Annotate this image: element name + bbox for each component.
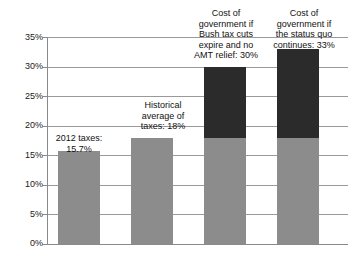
y-axis-label-30: 30% xyxy=(5,62,43,71)
y-axis-label-20: 20% xyxy=(5,121,43,130)
y-tick-15 xyxy=(43,155,47,156)
y-tick-10 xyxy=(43,185,47,186)
bar-segment-base xyxy=(58,151,100,244)
gridline-0-baseline xyxy=(47,244,348,245)
bar-status-quo-continues xyxy=(277,49,319,244)
y-tick-20 xyxy=(43,126,47,127)
bar-segment-top xyxy=(204,67,246,138)
y-tick-5 xyxy=(43,214,47,215)
y-axis-label-0: 0% xyxy=(5,239,43,248)
y-tick-30 xyxy=(43,67,47,68)
bar-segment-top xyxy=(277,49,319,138)
bar-label-historical-average: Historical average of taxes: 18% xyxy=(128,100,198,132)
y-axis-label-5: 5% xyxy=(5,210,43,219)
bar-segment-base xyxy=(131,138,173,244)
bar-segment-base xyxy=(277,138,319,244)
y-axis-label-10: 10% xyxy=(5,180,43,189)
y-tick-35 xyxy=(43,37,47,38)
bar-label-2012-taxes: 2012 taxes: 15.7% xyxy=(37,133,121,154)
bar-segment-base xyxy=(204,138,246,244)
y-axis-label-35: 35% xyxy=(5,33,43,42)
y-axis-label-25: 25% xyxy=(5,92,43,101)
bar-bush-tax-cuts-expire xyxy=(204,67,246,244)
bar-label-status-quo-continues: Cost of government if the status quo con… xyxy=(256,8,352,50)
bar-2012-taxes xyxy=(58,151,100,244)
bar-chart: 35% 30% 25% 20% 15% 10% 5% 0% 2012 taxes… xyxy=(0,0,358,260)
y-tick-25 xyxy=(43,96,47,97)
bar-historical-average xyxy=(131,138,173,244)
y-tick-0 xyxy=(43,244,47,245)
